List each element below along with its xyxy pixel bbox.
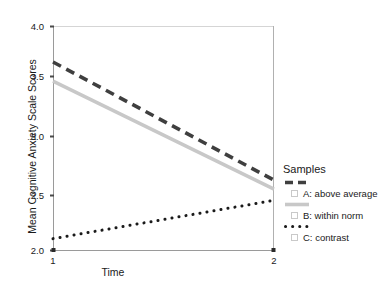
legend-label-b: B: within norm — [303, 210, 363, 221]
legend-title: Samples — [283, 163, 387, 175]
legend: Samples A: above average B: within norm — [283, 163, 387, 244]
legend-label-c: C: contrast — [303, 232, 349, 243]
series-line-c-contrast — [53, 200, 274, 238]
chart-figure: Mean Cognitive Anxiety Scale Scores 4.0 … — [0, 0, 387, 293]
legend-label-a: A: above average — [303, 188, 377, 199]
legend-entry-a[interactable]: A: above average — [283, 178, 387, 199]
legend-swatch-c-dotted — [284, 222, 310, 231]
series-line-b-within-norm — [53, 81, 274, 189]
legend-marker-icon — [291, 234, 298, 241]
plot-area — [0, 0, 387, 293]
series-line-a-above-average — [53, 62, 274, 180]
legend-entry-c[interactable]: C: contrast — [283, 222, 387, 243]
legend-marker-icon — [291, 190, 298, 197]
legend-swatch-a-dashed — [284, 178, 310, 187]
legend-entry-b[interactable]: B: within norm — [283, 200, 387, 221]
legend-marker-icon — [291, 212, 298, 219]
legend-swatch-b-solid — [284, 200, 310, 209]
